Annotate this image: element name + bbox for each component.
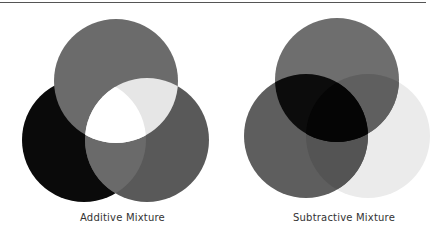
color-mixture-diagrams <box>0 0 443 235</box>
additive-mixture-label: Additive Mixture <box>80 212 165 223</box>
additive-mixture-diagram <box>22 19 209 202</box>
subtractive-mixture-label: Subtractive Mixture <box>293 212 395 223</box>
subtractive-mixture-diagram <box>244 18 430 198</box>
